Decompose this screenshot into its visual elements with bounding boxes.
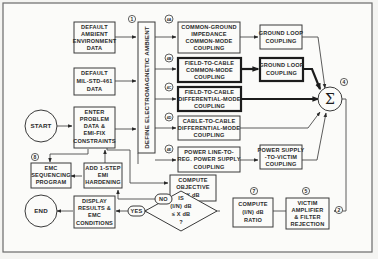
terminal-end: END — [25, 195, 57, 227]
block-text: PROBLEM — [80, 116, 110, 122]
block-text: EMI — [98, 172, 109, 178]
block-victim-amp: VICTIM AMPLIFIER & FILTER REJECTION — [286, 198, 329, 229]
block-text: COUPLING — [194, 103, 225, 109]
label-no: NO — [155, 194, 172, 204]
block-text: EMC — [44, 165, 57, 171]
sum-symbol: Σ — [325, 91, 335, 107]
label-yes: YES — [128, 206, 145, 216]
block-compute-ratio: COMPUTE (I/N) dB RATIO — [233, 198, 273, 227]
block-text: COUPLING — [193, 164, 224, 170]
block-text: EMI-FIX — [84, 130, 106, 136]
block-text: HARDENING — [85, 179, 121, 185]
block-text: COMPUTE — [178, 177, 207, 183]
block-text: DIFFERENTIAL-MODE — [178, 125, 241, 131]
block-text: COMMON-MODE — [186, 67, 233, 73]
tag-4c: 4C — [167, 86, 172, 90]
block-field-cable-dm: FIELD-TO-CABLE DIFFERENTIAL-MODE COUPLIN… — [178, 87, 241, 111]
block-ground-loop-1: GROUND LOOP COUPLING — [259, 25, 304, 49]
terminal-start: START — [25, 110, 57, 142]
block-default-milstd: DEFAULT MIL-STD-461 DATA — [74, 68, 115, 95]
block-text: MIL-STD-461 — [76, 78, 112, 84]
block-text: ADD 1-STEP — [85, 165, 120, 171]
block-text: REJECTION — [291, 221, 325, 227]
block-text: COMMON-GROUND — [181, 24, 236, 30]
block-text: VICTIM — [297, 200, 317, 206]
block-text: SEQUENCING — [31, 172, 71, 178]
tag-5: 5 — [305, 188, 308, 194]
tag-2: 2 — [338, 207, 341, 213]
block-display-results: DISPLAY RESULTS & EMC CONDITIONS — [74, 196, 115, 228]
block-text: COMMON-MODE — [186, 38, 233, 44]
block-text: DATA & — [84, 123, 105, 129]
block-text: ENTER — [85, 109, 105, 115]
emc-flowchart: DEFAULT AMBIENT ENVIRONMENT DATA DEFAULT… — [0, 0, 378, 259]
summing-junction: Σ — [318, 87, 342, 111]
block-text: IMPEDANCE — [191, 31, 226, 37]
block-ground-loop-2: GROUND LOOP COUPLING — [259, 58, 304, 81]
block-add-hardening: ADD 1-STEP EMI HARDENING — [84, 163, 122, 188]
tag-7: 7 — [253, 188, 256, 194]
block-common-ground: COMMON-GROUND IMPEDANCE COMMON-MODE COUP… — [178, 22, 240, 53]
block-text: NO — [159, 196, 168, 202]
block-text: EMC — [88, 212, 101, 218]
block-text: FIELD-TO-CABLE — [185, 89, 235, 95]
block-text: & FILTER — [294, 214, 320, 220]
block-power-supply-victim: POWER SUPPLY -TO-VICTIM COUPLING — [258, 145, 305, 169]
block-emc-sequencing: EMC SEQUENCING PROGRAM — [31, 163, 71, 188]
block-text: ≤ X dB — [172, 211, 191, 217]
tag-4e: 4E — [167, 148, 172, 152]
block-text: DATA — [87, 45, 103, 51]
block-text: POWER LINE-TO- — [184, 149, 234, 155]
block-text: AMPLIFIER — [292, 207, 324, 213]
block-text: GROUND LOOP — [259, 30, 304, 36]
block-cable-cable-dm: CABLE-TO-CABLE DIFFERENTIAL-MODE COUPLIN… — [178, 116, 241, 140]
block-text: FIELD-TO-CABLE — [185, 60, 235, 66]
block-text: COUPLING — [194, 74, 225, 80]
block-text: DEFAULT — [81, 70, 108, 76]
block-text: DEFAULT — [81, 24, 108, 30]
block-text: GROUND LOOP — [259, 62, 304, 68]
tag-4d: 4D — [167, 116, 172, 120]
block-text: DATA — [87, 86, 103, 92]
block-text: ? — [179, 219, 183, 225]
block-text: (I/N) dB — [170, 203, 191, 209]
block-text: (I/N) dB — [242, 209, 263, 215]
block-define-ambient: DEFINE ELECTROMAGNETIC AMBIENT — [138, 22, 155, 153]
block-text: START — [30, 122, 51, 129]
tag-4b: 4B — [167, 57, 172, 61]
block-text: YES — [131, 208, 143, 214]
block-text: COUPLING — [193, 132, 224, 138]
block-field-cable-cm: FIELD-TO-CABLE COMMON-MODE COUPLING — [178, 58, 241, 82]
block-text: DEFINE ELECTROMAGNETIC AMBIENT — [143, 26, 150, 149]
block-text: COUPLING — [265, 38, 296, 44]
block-text: PROGRAM — [36, 179, 67, 185]
block-enter-problem: ENTER PROBLEM DATA & EMI-FIX CONSTRAINTS — [73, 107, 116, 148]
block-text: POWER SUPPLY — [258, 147, 305, 153]
tag-4: 4 — [343, 79, 346, 85]
block-text: COUPLING — [193, 45, 224, 51]
block-text: -TO-VICTIM — [265, 154, 297, 160]
tag-4a: 4A — [167, 18, 172, 22]
block-text: COUPLING — [266, 70, 297, 76]
block-text: CONSTRAINTS — [73, 138, 116, 144]
block-text: ENVIRONMENT — [73, 38, 117, 44]
block-text: COMPUTE — [238, 201, 267, 207]
block-text: IS — [178, 195, 184, 201]
block-default-ambient: DEFAULT AMBIENT ENVIRONMENT DATA — [73, 22, 117, 53]
block-power-line: POWER LINE-TO- REG. POWER SUPPLY COUPLIN… — [177, 147, 240, 172]
block-text: AMBIENT — [81, 31, 108, 37]
block-text: RESULTS & — [78, 205, 111, 211]
block-text: COUPLING — [265, 161, 296, 167]
block-text: DIFFERENTIAL-MODE — [178, 96, 241, 102]
block-text: END — [34, 207, 48, 214]
block-text: DISPLAY — [82, 198, 107, 204]
tag-8: 8 — [34, 154, 37, 160]
tag-1: 1 — [131, 16, 134, 22]
block-text: CONDITIONS — [76, 220, 113, 226]
block-text: CABLE-TO-CABLE — [183, 118, 236, 124]
block-text: OBJECTIVE — [176, 184, 210, 190]
block-text: RATIO — [244, 217, 262, 223]
block-text: REG. POWER SUPPLY — [177, 156, 240, 162]
